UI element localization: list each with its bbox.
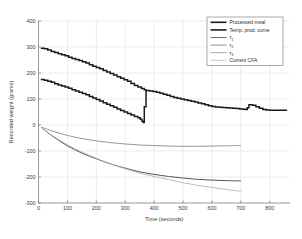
series-line-temp-prod-curve	[41, 80, 146, 123]
y-tick-label: 300	[27, 44, 36, 50]
y-tick-label: -200	[25, 174, 36, 180]
x-tick-label: 500	[179, 205, 188, 211]
legend-label-subscript: 1	[231, 38, 233, 42]
x-tick-label: 600	[207, 205, 216, 211]
chart-figure: 0100200300400500600700800 4003002001000-…	[0, 0, 302, 239]
x-axis-tick-labels: 0100200300400500600700800	[37, 205, 274, 211]
y-tick-label: 200	[27, 70, 36, 76]
legend-label-1: Processed meal	[230, 19, 266, 25]
x-tick-label: 800	[265, 205, 274, 211]
y-tick-label: 100	[27, 96, 36, 102]
y-axis-tick-labels: 4003002001000-100-200-300	[25, 18, 36, 206]
series-line-tau-3	[41, 128, 240, 192]
legend-label-2: Temp. prod. curve	[230, 27, 270, 33]
series-line-tau-2	[41, 128, 240, 181]
legend-label-6: Current CFA	[230, 57, 258, 63]
legend-label-subscript: 2	[231, 45, 233, 49]
x-axis-title: Time (seconds)	[145, 216, 183, 222]
x-tick-label: 400	[150, 205, 159, 211]
x-tick-label: 100	[63, 205, 72, 211]
y-tick-label: -300	[25, 200, 36, 206]
data-series	[41, 48, 287, 191]
series-line-tau-1	[41, 127, 240, 146]
x-tick-label: 700	[236, 205, 245, 211]
x-tick-label: 0	[37, 205, 40, 211]
y-tick-label: -100	[25, 148, 36, 154]
x-tick-label: 300	[121, 205, 130, 211]
y-tick-label: 0	[33, 122, 36, 128]
line-chart: 0100200300400500600700800 4003002001000-…	[0, 0, 302, 239]
y-tick-label: 400	[27, 18, 36, 24]
chart-legend: Processed mealTemp. prod. curveτ1τ2τ3Cur…	[207, 17, 283, 66]
y-axis-title: Recorded weight (grams)	[8, 80, 14, 143]
x-tick-label: 200	[92, 205, 101, 211]
